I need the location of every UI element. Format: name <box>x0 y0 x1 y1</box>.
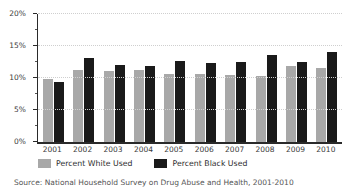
y-tick-label: 10% <box>0 74 26 82</box>
bar-2002-white <box>73 70 83 142</box>
legend-label: Percent Black Used <box>172 159 247 168</box>
y-major-tick <box>33 45 37 46</box>
x-tick-label-2010: 2010 <box>311 145 341 156</box>
y-minor-tick <box>35 125 37 126</box>
y-tick-label: 20% <box>0 10 26 18</box>
x-tick-label-2002: 2002 <box>67 145 97 156</box>
bar-2003-black <box>115 65 125 142</box>
y-major-tick <box>33 77 37 78</box>
bar-group-2001 <box>38 14 68 142</box>
bar-2008-black <box>267 55 277 142</box>
y-tick-label: 5% <box>0 106 26 114</box>
x-tick-label-2008: 2008 <box>250 145 280 156</box>
source-note: Source: National Household Survey on Dru… <box>14 178 294 187</box>
x-tick-label-2006: 2006 <box>189 145 219 156</box>
bar-2005-white <box>164 74 174 142</box>
bar-2008-white <box>256 76 266 142</box>
y-minor-tick <box>35 93 37 94</box>
bar-group-2003 <box>99 14 129 142</box>
x-tick-label-2009: 2009 <box>280 145 310 156</box>
y-minor-tick <box>35 29 37 30</box>
bar-group-2008 <box>251 14 281 142</box>
bar-group-2007 <box>220 14 250 142</box>
legend-swatch-icon <box>154 159 167 168</box>
bar-2007-white <box>225 75 235 142</box>
x-tick-label-2005: 2005 <box>159 145 189 156</box>
y-major-tick <box>33 109 37 110</box>
y-tick-label: 15% <box>0 42 26 50</box>
bar-2004-black <box>145 66 155 142</box>
bar-group-2010 <box>312 14 342 142</box>
bar-2007-black <box>236 62 246 142</box>
y-tick-label: 0% <box>0 138 26 146</box>
bar-group-2002 <box>68 14 98 142</box>
bar-2003-white <box>104 71 114 142</box>
bar-groups <box>38 14 342 142</box>
y-major-tick <box>33 13 37 14</box>
bar-group-2004 <box>129 14 159 142</box>
bar-2006-black <box>206 63 216 142</box>
bar-2010-black <box>327 52 337 142</box>
y-minor-tick <box>35 61 37 62</box>
legend-item-white: Percent White Used <box>38 159 132 168</box>
plot-area <box>37 14 342 144</box>
legend-item-black: Percent Black Used <box>154 159 247 168</box>
drug-use-by-race-bar-chart: 0%5%10%15%20% 20012002200320042005200620… <box>0 0 349 194</box>
bar-2006-white <box>195 74 205 142</box>
legend-swatch-icon <box>38 159 51 168</box>
x-tick-label-2003: 2003 <box>98 145 128 156</box>
bar-2009-black <box>297 62 307 142</box>
bar-group-2005 <box>160 14 190 142</box>
x-axis: 2001200220032004200520062007200820092010 <box>37 145 341 156</box>
y-axis: 0%5%10%15%20% <box>0 14 33 142</box>
bar-2001-white <box>43 79 53 142</box>
bar-2004-white <box>134 70 144 142</box>
legend-label: Percent White Used <box>56 159 132 168</box>
bar-2002-black <box>84 58 94 142</box>
bar-group-2009 <box>281 14 311 142</box>
legend: Percent White UsedPercent Black Used <box>38 159 247 168</box>
bar-2010-white <box>316 68 326 142</box>
bar-group-2006 <box>190 14 220 142</box>
x-tick-label-2004: 2004 <box>128 145 158 156</box>
bar-2005-black <box>175 61 185 142</box>
x-tick-label-2001: 2001 <box>37 145 67 156</box>
y-major-tick <box>33 141 37 142</box>
bar-2001-black <box>54 82 64 142</box>
x-tick-label-2007: 2007 <box>219 145 249 156</box>
bar-2009-white <box>286 66 296 142</box>
